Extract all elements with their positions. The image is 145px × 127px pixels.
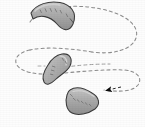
body-middle-outline bbox=[43, 54, 71, 84]
illustration-canvas bbox=[0, 0, 145, 127]
direction-of-motion-arrow bbox=[106, 87, 121, 91]
body-bottom-outline bbox=[66, 88, 98, 115]
trajectory-path-group bbox=[16, 6, 140, 91]
body-top-outline bbox=[31, 2, 75, 30]
trajectory-inner-segment bbox=[66, 64, 110, 67]
organism-body-top bbox=[31, 2, 75, 30]
direction-arrow-group bbox=[106, 87, 121, 91]
organism-body-middle bbox=[43, 54, 71, 84]
trajectory-lower-loop-right bbox=[53, 70, 140, 91]
figure-container: Spiral swimming trajectory of an undulat… bbox=[0, 0, 145, 127]
organism-body-bottom bbox=[66, 88, 98, 115]
trajectory-descender bbox=[30, 48, 92, 52]
